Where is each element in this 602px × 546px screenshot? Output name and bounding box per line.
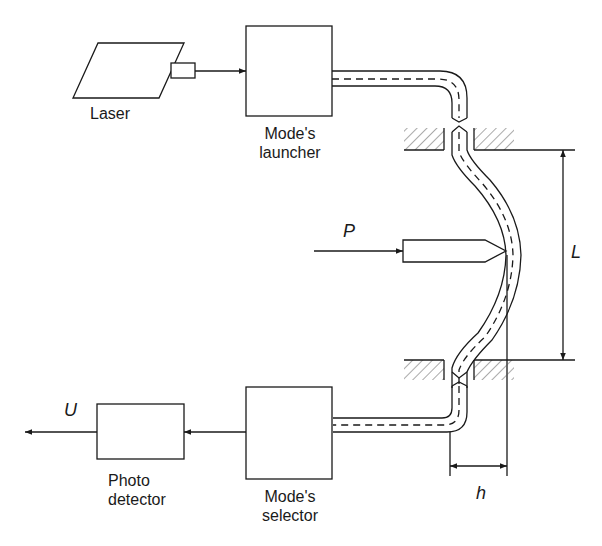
diagram-drawing (0, 0, 602, 546)
output-label: U (64, 401, 77, 420)
selector-label-line2: selector (250, 506, 330, 525)
dimension-h-label: h (476, 484, 486, 503)
selector-label: Mode's selector (250, 487, 330, 525)
launcher-label: Mode's launcher (250, 124, 330, 162)
selector-box (246, 387, 332, 479)
fiber-lower-outer (333, 386, 467, 432)
force-label: P (343, 222, 355, 241)
laser-nozzle (171, 63, 195, 78)
detector-label-line2: detector (108, 490, 166, 509)
detector-label: Photo detector (108, 471, 166, 509)
laser-body (73, 43, 184, 98)
fiber-lower-core (333, 386, 459, 425)
selector-label-line1: Mode's (250, 487, 330, 506)
fiber-upper-core (332, 79, 459, 118)
launcher-label-line2: launcher (250, 143, 330, 162)
detector-box (97, 404, 184, 459)
diagram-canvas: Laser Mode's launcher P L h U Photo dete… (0, 0, 602, 546)
launcher-label-line1: Mode's (250, 124, 330, 143)
detector-label-line1: Photo (108, 471, 166, 490)
fiber-lower-inner (333, 386, 452, 418)
fiber-upper-inner (332, 86, 452, 118)
launcher-box (246, 26, 332, 116)
plunger-body (403, 240, 506, 262)
fiber-upper-outer (332, 71, 467, 118)
dimension-L-label: L (571, 243, 581, 262)
laser-label: Laser (90, 104, 130, 123)
